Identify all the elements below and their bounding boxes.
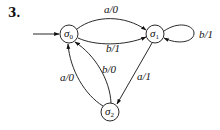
state-s1: σ1 bbox=[146, 25, 164, 43]
state-s0: σ0 bbox=[60, 25, 78, 43]
edge-label-s1-s2-a: a/1 bbox=[137, 70, 151, 82]
problem-number: 3. bbox=[8, 6, 21, 20]
edge-label-s1-self-b: b/1 bbox=[199, 28, 213, 40]
state-s2: σ2 bbox=[101, 103, 119, 121]
edge-s0-s1-a bbox=[77, 19, 146, 30]
edge-s1-self-b bbox=[164, 25, 194, 42]
finite-state-machine-diagram: 3. a/0 b/1 b/1 a/1 a/0 b/0 σ0 σ1 σ2 bbox=[0, 0, 220, 130]
edge-label-s2-s0-a: a/0 bbox=[60, 71, 75, 83]
edge-label-s2-s0-b: b/0 bbox=[102, 63, 117, 75]
edge-label-s0-s1-b: b/1 bbox=[106, 42, 120, 54]
edge-label-s0-s1-a: a/0 bbox=[104, 3, 119, 15]
